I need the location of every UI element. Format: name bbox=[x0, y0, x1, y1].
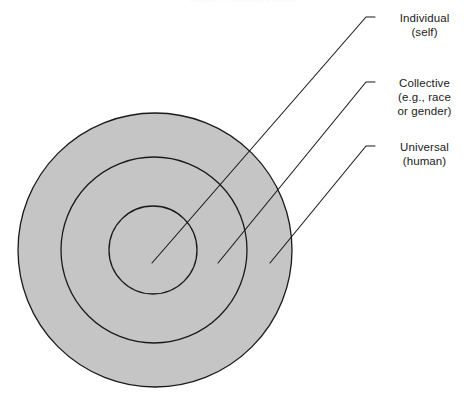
callout-label-individual: Individual (self) bbox=[385, 11, 464, 39]
callout-label-universal: Universal (human) bbox=[385, 140, 464, 168]
concentric-circles-diagram bbox=[0, 0, 464, 403]
figure-page: Figure 1. Levels of identity Individual … bbox=[0, 0, 464, 403]
callout-label-collective: Collective (e.g., race or gender) bbox=[385, 76, 464, 118]
inner-ring bbox=[109, 206, 197, 294]
